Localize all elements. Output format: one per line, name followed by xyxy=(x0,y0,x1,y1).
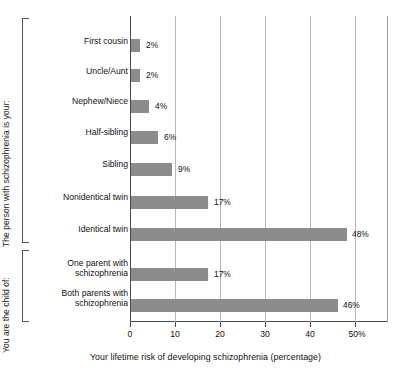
bar-value-nephew-niece: 4% xyxy=(155,100,167,113)
schizophrenia-risk-bar-chart: The person with schizophrenia is your: Y… xyxy=(0,0,411,371)
bar-nephew-niece xyxy=(131,100,149,113)
tick-30 xyxy=(265,322,266,327)
bar-first-cousin xyxy=(131,39,140,52)
bar-value-half-sibling: 6% xyxy=(164,131,176,144)
plot-area: 2% 2% 4% 6% 9% 17% 48% 17% 46% 0 10 20 3… xyxy=(130,16,388,322)
bar-value-both-parents: 46% xyxy=(343,299,360,312)
tick-50 xyxy=(355,322,356,327)
bar-both-parents xyxy=(131,299,338,312)
bar-value-nonidentical-twin: 17% xyxy=(214,196,231,209)
bar-value-identical-twin: 48% xyxy=(352,228,369,241)
bar-value-uncle-aunt: 2% xyxy=(146,69,158,82)
bar-nonidentical-twin xyxy=(131,196,208,209)
tick-label-50: 50% xyxy=(348,329,365,339)
group-label-children: You are the child of: xyxy=(1,277,11,353)
tick-label-30: 30 xyxy=(260,329,270,339)
tick-label-0: 0 xyxy=(128,329,133,339)
bar-identical-twin xyxy=(131,228,347,241)
bar-value-sibling: 9% xyxy=(178,163,190,176)
bar-value-first-cousin: 2% xyxy=(146,39,158,52)
x-axis-title: Your lifetime risk of developing schizop… xyxy=(0,352,411,362)
bar-half-sibling xyxy=(131,131,158,144)
tick-40 xyxy=(310,322,311,327)
tick-10 xyxy=(175,322,176,327)
bar-sibling xyxy=(131,163,172,176)
gridline-50 xyxy=(355,16,356,322)
gridline-30 xyxy=(265,16,266,322)
tick-0 xyxy=(130,322,131,327)
tick-20 xyxy=(220,322,221,327)
group-label-relatives: The person with schizophrenia is your: xyxy=(1,100,11,247)
tick-label-20: 20 xyxy=(215,329,225,339)
tick-label-40: 40 xyxy=(305,329,315,339)
tick-label-10: 10 xyxy=(170,329,180,339)
gridline-40 xyxy=(310,16,311,322)
bar-uncle-aunt xyxy=(131,69,140,82)
bar-value-one-parent: 17% xyxy=(214,268,231,281)
gridline-right-edge xyxy=(387,16,388,322)
bar-one-parent xyxy=(131,268,208,281)
